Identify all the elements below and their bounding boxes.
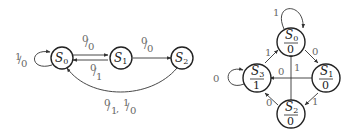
label-s2-s3: 0 [266,97,272,108]
label-s2-s0: 1 [294,62,300,73]
mealy-diagram: 1 ∕ 0 0 ∕ 0 0 ∕ 1 0 ∕ 0 0 ∕ 1 [15,33,193,116]
state-s1: S1 [110,47,132,69]
svg-text:0: 0 [287,115,294,128]
svg-text:0: 0 [147,43,153,54]
state-s2: S2 0 [277,100,305,128]
label-s0-self: 1 ∕ 0 [15,51,27,69]
state-s2: S2 [171,47,193,69]
svg-text:1: 1 [253,79,260,92]
label-s0-s1: 0 ∕ 0 [82,33,94,52]
label-s1-s2: 1 [312,96,318,107]
label-s1-s3: 0 [278,66,284,77]
state-diagrams: 1 ∕ 0 0 ∕ 0 0 ∕ 1 0 ∕ 0 0 ∕ 1 [0,0,359,138]
edge-s0-self [281,9,303,29]
edge-s2-s0 [67,68,177,92]
svg-text:0: 0 [322,79,329,92]
svg-text:0: 0 [287,43,294,56]
label-s3-s0: 1 [265,47,271,58]
svg-text:0: 0 [21,58,27,69]
svg-text:,: , [116,103,119,114]
moore-diagram: 1 0 0 1 1 0 1 0 S0 0 S1 [213,7,340,128]
svg-text:0: 0 [88,41,94,52]
state-s1: S1 0 [312,64,340,92]
state-s0: S0 0 [277,28,305,56]
state-s3: S3 1 [243,64,271,92]
edge-s3-self [228,69,244,85]
label-s2-s0: 0 ∕ 1 , 1 ∕ 0 [104,97,136,116]
label-s1-s0: 0 ∕ 1 [90,62,102,82]
label-s0-s1: 0 [312,46,318,57]
label-s3-self: 0 [213,73,219,84]
svg-text:0: 0 [130,105,136,116]
label-s1-s2: 0 ∕ 0 [141,35,153,54]
svg-text:1: 1 [96,71,102,82]
edge-s0-self [34,52,52,67]
state-s0: S0 [51,47,73,69]
label-s0-self: 1 [273,7,279,18]
